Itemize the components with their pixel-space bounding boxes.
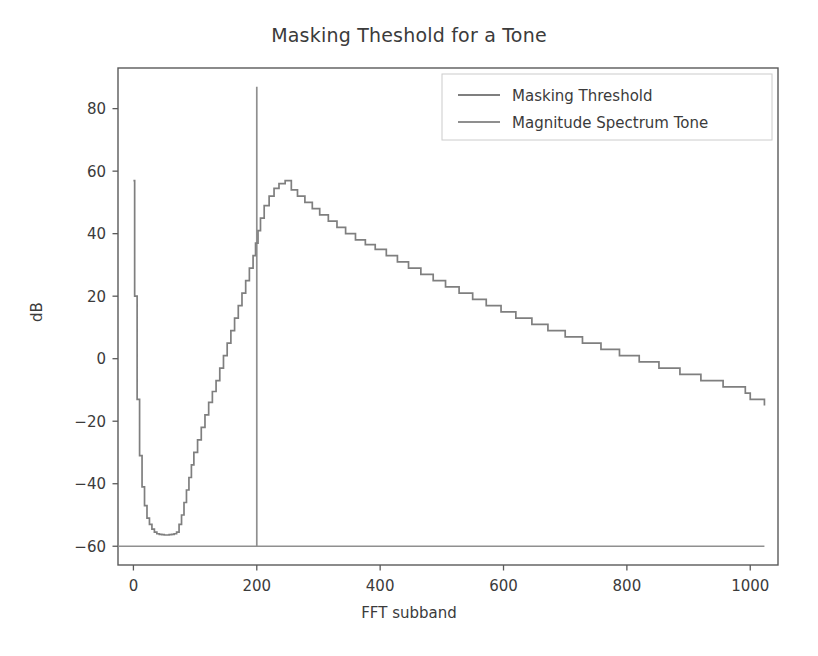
- legend-label: Magnitude Spectrum Tone: [512, 114, 708, 132]
- y-tick-label: 60: [87, 163, 106, 181]
- y-tick-label: −60: [74, 538, 106, 556]
- x-tick-label: 200: [242, 577, 271, 595]
- x-tick-label: 1000: [731, 577, 769, 595]
- chart-plot: 02004006008001000 −60−40−20020406080 Mas…: [0, 0, 818, 656]
- y-tick-label: −40: [74, 475, 106, 493]
- axes-frame: [118, 68, 778, 565]
- legend-label: Masking Threshold: [512, 87, 653, 105]
- x-tick-label: 0: [129, 577, 139, 595]
- x-tick-label: 600: [489, 577, 518, 595]
- figure-canvas: Masking Theshold for a Tone 020040060080…: [0, 0, 818, 656]
- y-tick-label: 80: [87, 100, 106, 118]
- legend: Masking ThresholdMagnitude Spectrum Tone: [442, 74, 772, 140]
- x-axis-label: FFT subband: [0, 604, 818, 622]
- y-axis-ticks: −60−40−20020406080: [74, 100, 118, 556]
- y-tick-label: 20: [87, 288, 106, 306]
- y-axis-label: dB: [28, 262, 46, 362]
- x-tick-label: 400: [366, 577, 395, 595]
- y-tick-label: 0: [96, 350, 106, 368]
- y-tick-label: −20: [74, 413, 106, 431]
- x-axis-ticks: 02004006008001000: [129, 565, 770, 595]
- y-tick-label: 40: [87, 225, 106, 243]
- data-series-group: [118, 87, 764, 546]
- x-tick-label: 800: [613, 577, 642, 595]
- series-magnitude-spectrum-tone: [118, 87, 764, 546]
- series-masking-threshold: [133, 181, 764, 535]
